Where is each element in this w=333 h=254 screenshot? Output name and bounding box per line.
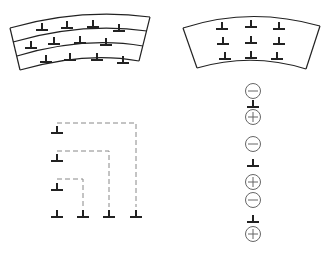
edge-dislocation-icon	[113, 24, 125, 31]
edge-dislocation-icon	[51, 154, 63, 161]
minus-defect-icon	[246, 137, 261, 152]
edge-dislocation-icon	[51, 183, 63, 190]
edge-dislocation-icon	[40, 55, 52, 62]
edge-dislocation-icon	[245, 51, 257, 58]
edge-dislocation-icon	[48, 37, 60, 44]
edge-dislocation-icon	[51, 126, 63, 133]
edge-dislocation-icon	[245, 20, 257, 27]
plus-defect-icon	[246, 175, 261, 190]
edge-dislocation-icon	[87, 20, 99, 27]
plus-defect-icon	[246, 110, 261, 125]
edge-dislocation-icon	[247, 215, 259, 222]
edge-dislocation-icon	[245, 36, 257, 43]
panel-top-left-dislocations	[25, 20, 129, 63]
edge-dislocation-icon	[74, 36, 86, 43]
edge-dislocation-icon	[36, 23, 48, 30]
edge-dislocation-icon	[273, 37, 285, 44]
edge-dislocation-icon	[91, 53, 103, 60]
edge-dislocation-icon	[103, 210, 115, 217]
dislocation-diagram	[0, 0, 333, 254]
edge-dislocation-icon	[247, 100, 259, 107]
edge-dislocation-icon	[61, 21, 73, 28]
edge-dislocation-icon	[216, 22, 228, 29]
edge-dislocation-icon	[51, 210, 63, 217]
edge-dislocation-icon	[130, 210, 142, 217]
edge-dislocation-icon	[77, 210, 89, 217]
panel-bottom-left-climb-paths	[57, 123, 136, 207]
minus-defect-icon	[246, 84, 261, 99]
panel-bottom-left-dislocations	[51, 126, 142, 217]
edge-dislocation-icon	[247, 159, 259, 166]
plus-defect-icon	[246, 227, 261, 242]
panel-top-right-dislocations	[216, 20, 285, 59]
edge-dislocation-icon	[273, 22, 285, 29]
edge-dislocation-icon	[25, 41, 37, 48]
panel-bottom-right-defect-chain	[246, 84, 261, 242]
edge-dislocation-icon	[271, 52, 283, 59]
edge-dislocation-icon	[217, 37, 229, 44]
edge-dislocation-icon	[219, 52, 231, 59]
minus-defect-icon	[246, 193, 261, 208]
edge-dislocation-icon	[100, 38, 112, 45]
